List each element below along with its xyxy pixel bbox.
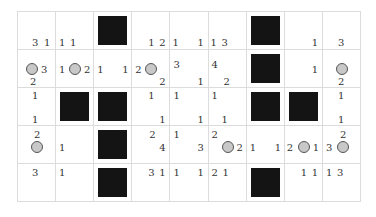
grid-cell[interactable]: 31	[170, 50, 208, 88]
clue-number: 2	[212, 168, 218, 178]
circle-icon	[31, 141, 43, 153]
clue-number: 3	[148, 168, 154, 178]
grid-cell[interactable]: 21	[209, 164, 247, 202]
clue-number: 2	[149, 130, 155, 140]
clue-number: 2	[159, 77, 165, 87]
grid-cell[interactable]: 13	[170, 126, 208, 164]
clue-number: 1	[59, 38, 65, 48]
clue-number: 1	[222, 115, 228, 125]
clue-number: 3	[41, 65, 47, 75]
block-cell[interactable]	[247, 12, 285, 50]
grid-cell[interactable]: 12	[132, 12, 170, 50]
grid-cell[interactable]: 2	[18, 126, 56, 164]
clue-number: 2	[84, 65, 90, 75]
block-cell[interactable]	[94, 88, 132, 126]
clue-number: 1	[326, 168, 332, 178]
clue-number: 4	[212, 60, 218, 70]
block-cell[interactable]	[94, 164, 132, 202]
block-cell[interactable]	[94, 126, 132, 164]
block-cell[interactable]	[247, 88, 285, 126]
clue-number: 1	[172, 38, 178, 48]
clue-number: 2	[287, 143, 293, 153]
block-cell[interactable]	[247, 50, 285, 88]
circle-icon	[69, 63, 81, 75]
block-cell[interactable]	[247, 164, 285, 202]
grid-cell[interactable]: 32	[323, 126, 361, 164]
grid-cell[interactable]: 1	[285, 12, 323, 50]
clue-number: 1	[148, 91, 154, 101]
clue-number: 1	[173, 91, 179, 101]
clue-number: 1	[97, 65, 103, 75]
clue-number: 1	[173, 168, 179, 178]
grid-cell[interactable]: 12	[56, 50, 94, 88]
clue-number: 1	[59, 168, 65, 178]
clue-number: 3	[222, 38, 228, 48]
clue-number: 2	[338, 77, 344, 87]
grid-cell[interactable]: 11	[247, 126, 285, 164]
grid-cell[interactable]: 1	[56, 126, 94, 164]
clue-number: 3	[326, 143, 332, 153]
clue-number: 1	[250, 143, 256, 153]
clue-number: 3	[32, 38, 38, 48]
grid-cell[interactable]: 24	[132, 126, 170, 164]
clue-number: 1	[148, 38, 154, 48]
grid-cell[interactable]: 11	[170, 88, 208, 126]
clue-number: 2	[237, 143, 243, 153]
grid-cell[interactable]: 1	[56, 164, 94, 202]
clue-number: 2	[212, 130, 218, 140]
grid-cell[interactable]: 1	[285, 50, 323, 88]
grid-cell[interactable]: 11	[323, 88, 361, 126]
clue-number: 1	[197, 115, 203, 125]
block-cell[interactable]	[94, 12, 132, 50]
block-cell[interactable]	[285, 88, 323, 126]
grid-cell[interactable]: 11	[94, 50, 132, 88]
clue-number: 1	[197, 77, 203, 87]
grid-cell[interactable]: 22	[132, 50, 170, 88]
clue-number: 1	[159, 115, 165, 125]
clue-number: 2	[340, 130, 346, 140]
block-cell[interactable]	[56, 88, 94, 126]
grid-cell[interactable]: 31	[132, 164, 170, 202]
clue-number: 1	[173, 130, 179, 140]
grid-cell[interactable]: 11	[285, 164, 323, 202]
grid-cell[interactable]: 11	[170, 12, 208, 50]
clue-number: 1	[197, 38, 203, 48]
puzzle-grid: 3111121113133212112231421211111111112124…	[17, 11, 361, 202]
clue-number: 1	[275, 143, 281, 153]
grid-cell[interactable]: 22	[209, 126, 247, 164]
clue-number: 3	[197, 143, 203, 153]
clue-number: 3	[32, 168, 38, 178]
clue-number: 2	[30, 77, 36, 87]
clue-number: 1	[338, 91, 344, 101]
circle-icon	[298, 141, 310, 153]
clue-number: 1	[338, 115, 344, 125]
grid-cell[interactable]: 11	[132, 88, 170, 126]
grid-cell[interactable]: 13	[209, 12, 247, 50]
grid-cell[interactable]: 3	[323, 12, 361, 50]
clue-number: 1	[313, 143, 319, 153]
grid-cell[interactable]: 31	[18, 12, 56, 50]
grid-cell[interactable]: 13	[323, 164, 361, 202]
grid-cell[interactable]: 21	[285, 126, 323, 164]
clue-number: 1	[211, 38, 217, 48]
grid-cell[interactable]: 2	[323, 50, 361, 88]
grid-cell[interactable]: 42	[209, 50, 247, 88]
grid-cell[interactable]: 11	[170, 164, 208, 202]
grid-cell[interactable]: 11	[209, 88, 247, 126]
clue-number: 1	[32, 91, 38, 101]
grid-cell[interactable]: 11	[18, 88, 56, 126]
clue-number: 1	[70, 38, 76, 48]
clue-number: 1	[159, 168, 165, 178]
clue-number: 1	[223, 168, 229, 178]
grid-cell[interactable]: 32	[18, 50, 56, 88]
clue-number: 1	[197, 168, 203, 178]
clue-number: 1	[212, 91, 218, 101]
clue-number: 1	[59, 143, 65, 153]
clue-number: 2	[159, 38, 165, 48]
grid-cell[interactable]: 3	[18, 164, 56, 202]
grid-cell[interactable]: 11	[56, 12, 94, 50]
circle-icon	[145, 63, 157, 75]
clue-number: 4	[159, 143, 165, 153]
clue-number: 1	[312, 168, 318, 178]
clue-number: 1	[59, 65, 65, 75]
